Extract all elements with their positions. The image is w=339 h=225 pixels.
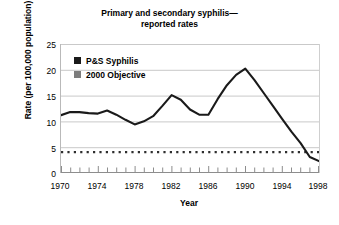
chart-title-line-1: Primary and secondary syphilis— — [0, 8, 339, 19]
x-tick-label-1970: 1970 — [43, 181, 77, 191]
y-axis-title: Rate (per 100,000 population) — [23, 0, 33, 135]
x-tick-label-1990: 1990 — [228, 181, 262, 191]
legend-label-2000-objective: 2000 Objective — [86, 70, 146, 80]
x-tick-label-1982: 1982 — [154, 181, 188, 191]
legend-label-ps-syphilis: P&S Syphilis — [86, 56, 138, 66]
chart-title: Primary and secondary syphilis— reported… — [0, 8, 339, 30]
y-tick-label-0: 0 — [34, 169, 56, 179]
x-axis-minor-ticks — [62, 166, 319, 172]
legend-item-2000-objective: 2000 Objective — [74, 68, 146, 81]
y-tick-label-25: 25 — [34, 40, 56, 50]
chart-figure: Primary and secondary syphilis— reported… — [0, 0, 339, 225]
y-tick-label-10: 10 — [34, 118, 56, 128]
chart-legend: P&S Syphilis 2000 Objective — [74, 54, 146, 82]
chart-title-line-2: reported rates — [0, 19, 339, 30]
x-tick-label-1974: 1974 — [80, 181, 114, 191]
y-tick-label-20: 20 — [34, 66, 56, 76]
x-tick-label-1994: 1994 — [265, 181, 299, 191]
x-tick-label-1986: 1986 — [191, 181, 225, 191]
legend-swatch-icon-ps-syphilis — [74, 57, 81, 64]
x-tick-label-1998: 1998 — [301, 181, 335, 191]
legend-swatch-icon-2000-objective — [74, 71, 81, 78]
x-axis-title: Year — [60, 198, 318, 208]
legend-item-ps-syphilis: P&S Syphilis — [74, 54, 146, 67]
y-tick-label-15: 15 — [34, 92, 56, 102]
x-tick-label-1978: 1978 — [117, 181, 151, 191]
y-tick-label-5: 5 — [34, 144, 56, 154]
